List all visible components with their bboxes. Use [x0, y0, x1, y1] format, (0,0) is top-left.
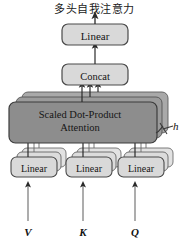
input-label-k: K: [72, 226, 94, 238]
linear-q-front[interactable]: [118, 157, 164, 177]
output-linear-box[interactable]: [62, 24, 128, 45]
linear-stack-q: [118, 148, 173, 177]
linear-k-front[interactable]: [66, 157, 112, 177]
attention-front[interactable]: [9, 102, 157, 143]
concat-box[interactable]: [62, 64, 128, 85]
linear-stack-k: [66, 148, 121, 177]
wire-group-bottom-inputs: [28, 184, 135, 221]
attention-stack: [9, 92, 168, 143]
heads-count-label: h: [173, 120, 179, 132]
diagram-canvas: [0, 0, 189, 244]
linear-stack-v: [11, 148, 66, 177]
linear-v-front[interactable]: [11, 157, 57, 177]
input-label-q: Q: [124, 226, 146, 238]
multi-head-attention-diagram: 多头自我注意力: [0, 0, 189, 244]
input-label-v: V: [17, 226, 39, 238]
